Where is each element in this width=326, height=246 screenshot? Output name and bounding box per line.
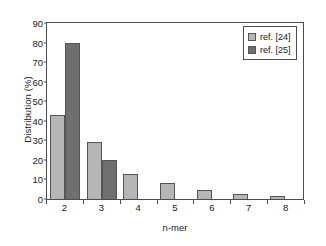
bar-group <box>120 23 157 199</box>
chart-legend: ref. [24]ref. [25] <box>243 26 297 60</box>
x-axis-tick-label: 4 <box>120 202 157 213</box>
x-axis-tick-label: 8 <box>267 202 304 213</box>
x-axis-tick-mark <box>304 200 305 204</box>
x-axis-tick-label: 2 <box>46 202 83 213</box>
bar <box>270 196 285 199</box>
y-axis-tick-label: 10 <box>3 174 43 185</box>
legend-label: ref. [24] <box>260 32 291 42</box>
bar <box>197 190 212 199</box>
bar <box>233 194 248 199</box>
legend-swatch-icon <box>248 46 256 54</box>
y-axis-tick-label: 60 <box>3 76 43 87</box>
bar <box>87 142 102 199</box>
x-axis-tick-label: 7 <box>230 202 267 213</box>
bar <box>160 183 175 199</box>
x-axis-tick-labels: 2345678 <box>46 202 304 213</box>
bar <box>102 160 117 199</box>
y-axis-tick-label: 70 <box>3 57 43 68</box>
y-axis-tick-label: 0 <box>3 194 43 205</box>
bar-group <box>84 23 121 199</box>
bar <box>123 174 138 199</box>
bar-group <box>157 23 194 199</box>
y-axis-tick-label: 20 <box>3 154 43 165</box>
bar <box>50 115 65 199</box>
bar-group <box>47 23 84 199</box>
x-axis-tick-label: 3 <box>83 202 120 213</box>
legend-item: ref. [25] <box>248 43 291 56</box>
legend-swatch-icon <box>248 33 256 41</box>
x-axis-tick-label: 5 <box>157 202 194 213</box>
y-axis-tick-label: 40 <box>3 115 43 126</box>
bar <box>65 43 80 199</box>
y-axis-tick-label: 50 <box>3 96 43 107</box>
legend-label: ref. [25] <box>260 45 291 55</box>
y-axis-tick-label: 90 <box>3 18 43 29</box>
x-axis-title: n-mer <box>46 222 304 233</box>
y-axis-title: Distribution (%) <box>22 30 33 190</box>
bar-group <box>193 23 230 199</box>
x-axis-tick-label: 6 <box>193 202 230 213</box>
y-axis-tick-label: 30 <box>3 135 43 146</box>
legend-item: ref. [24] <box>248 30 291 43</box>
bar-chart-figure: Distribution (%) 0102030405060708090 234… <box>0 0 326 246</box>
y-axis-tick-label: 80 <box>3 37 43 48</box>
